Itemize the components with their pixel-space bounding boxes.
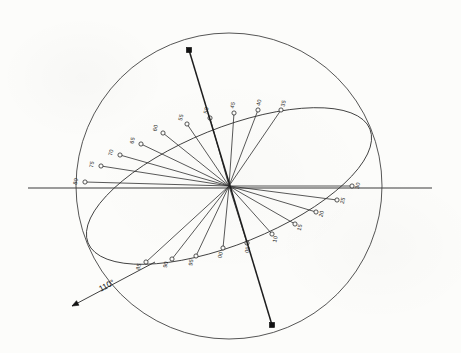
radial-spoke	[223, 186, 229, 248]
angle-annotation-label: 110°	[98, 278, 117, 294]
radial-spoke	[229, 186, 316, 212]
data-point-marker	[221, 246, 225, 250]
point-label: 35	[280, 100, 287, 108]
point-label: 55	[177, 114, 184, 122]
radial-spoke	[196, 186, 229, 256]
radial-spoke	[229, 186, 272, 234]
point-label: 40	[255, 99, 262, 107]
data-point-marker	[232, 111, 236, 115]
point-label: 15	[296, 224, 303, 232]
north-pole-marker	[186, 47, 191, 52]
radial-spoke	[146, 186, 229, 262]
radial-spoke-group	[85, 110, 352, 262]
point-label: 70	[107, 149, 114, 157]
point-label: 60	[152, 124, 159, 132]
data-point-marker	[161, 131, 165, 135]
south-pole-marker	[269, 322, 274, 327]
point-label: 45	[229, 101, 236, 109]
point-label: 10	[271, 235, 278, 243]
data-point-marker	[139, 142, 143, 146]
data-point-marker	[170, 257, 174, 261]
figure-root: 8075706560555045403530252015100500959085…	[0, 0, 461, 353]
point-label: 95	[187, 259, 194, 267]
data-point-marker	[99, 164, 103, 168]
data-point-marker	[118, 153, 122, 157]
data-point-marker	[144, 260, 148, 264]
point-label: 25	[339, 197, 346, 205]
data-point-marker	[185, 122, 189, 126]
radial-spoke	[187, 124, 229, 186]
data-point-marker	[279, 108, 283, 112]
sphere-diagram: 8075706560555045403530252015100500959085…	[0, 0, 461, 353]
point-label: 00	[217, 251, 224, 259]
point-label: 65	[129, 137, 136, 145]
data-point-marker	[83, 180, 87, 184]
point-label: 20	[318, 210, 325, 218]
point-label-group: 8075706560555045403530252015100500959085	[72, 99, 361, 271]
radial-spoke	[172, 186, 229, 259]
point-label: 75	[88, 161, 95, 169]
point-label: 80	[72, 178, 79, 186]
annotation-arrow-icon	[72, 301, 79, 306]
point-label: 90	[162, 261, 169, 269]
data-point-marker	[194, 254, 198, 258]
data-point-marker	[256, 108, 260, 112]
